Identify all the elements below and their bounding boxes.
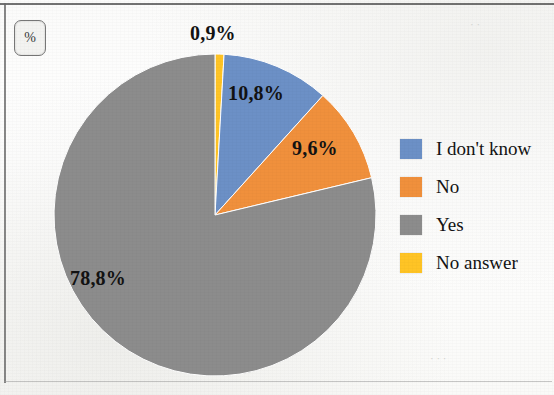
legend-label: No answer bbox=[436, 252, 518, 274]
legend-item: No answer bbox=[400, 252, 531, 274]
slice-label-yes: 78,8% bbox=[70, 267, 126, 290]
legend-item: Yes bbox=[400, 214, 531, 236]
legend-item: No bbox=[400, 176, 531, 198]
pie-svg bbox=[53, 53, 377, 377]
frame-border-bottom bbox=[4, 381, 552, 382]
slice-label-no: 9,6% bbox=[292, 137, 338, 160]
legend-swatch bbox=[400, 139, 422, 159]
legend-item: I don't know bbox=[400, 138, 531, 160]
legend-swatch bbox=[400, 215, 422, 235]
legend-label: I don't know bbox=[436, 138, 531, 160]
pie-chart-figure: · a mit · · · · · % 0,9% 10,8% 9,6% 78,8… bbox=[0, 0, 554, 395]
legend-swatch bbox=[400, 177, 422, 197]
frame-border-top bbox=[0, 3, 554, 5]
legend-label: Yes bbox=[436, 214, 464, 236]
unit-badge-label: % bbox=[24, 30, 36, 46]
frame-border-left bbox=[4, 3, 6, 383]
pie-graphic bbox=[53, 53, 377, 377]
slice-label-no-answer: 0,9% bbox=[190, 22, 236, 45]
legend-label: No bbox=[436, 176, 459, 198]
legend-swatch bbox=[400, 253, 422, 273]
slice-label-i-dont-know: 10,8% bbox=[228, 82, 284, 105]
legend: I don't knowNoYesNo answer bbox=[400, 138, 531, 274]
unit-badge: % bbox=[14, 20, 46, 56]
